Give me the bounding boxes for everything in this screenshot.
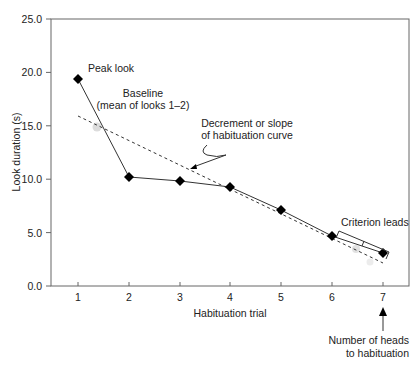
x-tick-label: 2 [126,291,132,303]
annotation-slope: Decrement or slope [201,117,293,129]
y-tick-label: 5.0 [27,227,42,239]
x-axis: 1 2 3 4 5 6 7 Habituation trial [75,282,386,319]
habituation-chart: 0.0 5.0 10.0 15.0 20.0 25.0 Look duratio… [0,0,419,366]
x-tick-label: 7 [380,291,386,303]
slope-pointer [196,145,226,166]
marker-diamond [327,231,337,241]
annotation-number-of-heads: Number of heads [328,334,409,346]
marker-diamond [276,205,286,215]
marker-diamond [124,172,134,182]
marker-diamond [225,182,235,192]
annotation-to-habituation: to habituation [346,347,409,359]
marker-diamond [175,176,185,186]
y-tick-label: 25.0 [22,13,43,25]
y-tick-label: 20.0 [22,66,43,78]
baseline-markers [93,123,374,266]
x-tick-label: 6 [329,291,335,303]
x-tick-label: 3 [177,291,183,303]
x-tick-label: 5 [278,291,284,303]
up-arrow-icon [379,307,387,316]
y-tick-label: 15.0 [22,120,43,132]
marker-diamond [73,74,83,84]
slope-arrowhead-icon [190,164,197,169]
x-tick-label: 1 [75,291,81,303]
y-tick-label: 10.0 [22,173,43,185]
annotation-criterion-leads: Criterion leads [341,216,409,228]
x-axis-label: Habituation trial [194,307,267,319]
annotation-peak-look: Peak look [88,62,135,74]
y-axis: 0.0 5.0 10.0 15.0 20.0 25.0 Look duratio… [10,13,51,292]
y-axis-label: Look duration (s) [10,113,22,192]
y-tick-label: 0.0 [27,280,42,292]
annotation-baseline: Baseline [123,87,163,99]
x-tick-label: 4 [227,291,233,303]
annotation-slope-sub: of habituation curve [201,129,293,141]
annotation-baseline-sub: (mean of looks 1–2) [97,99,190,111]
